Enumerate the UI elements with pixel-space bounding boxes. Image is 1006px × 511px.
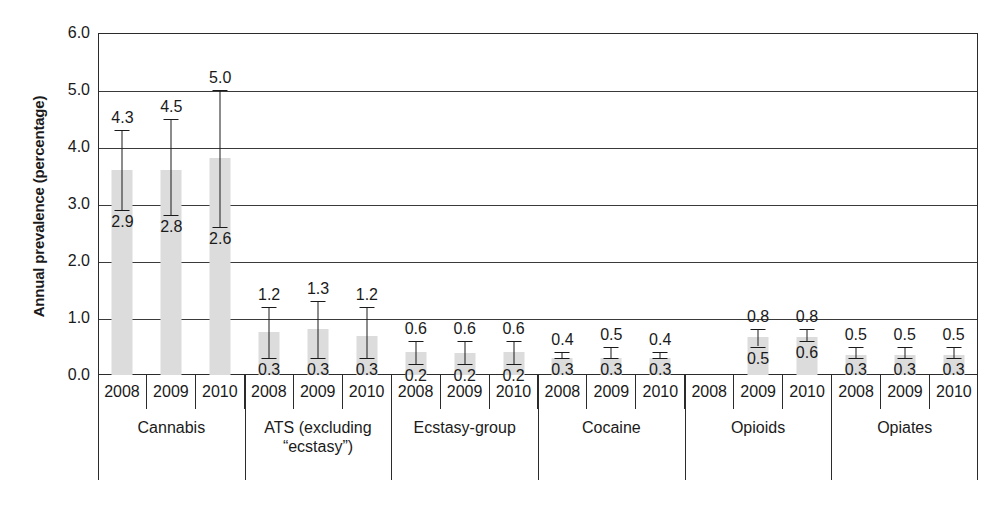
lower-value-label: 2.9: [111, 213, 133, 230]
error-bar-cap-upper: [311, 301, 326, 302]
group-separator: [685, 375, 686, 480]
y-tick-label: 3.0: [48, 196, 90, 212]
bar-cell: 1.20.3: [245, 33, 294, 375]
group-label: Ecstasy-group: [391, 409, 538, 480]
error-bar-cap-lower: [115, 210, 130, 211]
upper-value-label: 5.0: [209, 69, 231, 86]
error-bar-cap-lower: [457, 364, 472, 365]
year-label: 2009: [293, 375, 342, 409]
year-label: 2010: [635, 375, 684, 409]
error-bar: [220, 90, 221, 227]
error-bar: [269, 307, 270, 358]
error-bar-cap-lower: [311, 358, 326, 359]
upper-value-label: 0.5: [942, 326, 964, 343]
error-bar-cap-upper: [555, 352, 570, 353]
error-bar: [806, 329, 807, 340]
upper-value-label: 0.5: [894, 326, 916, 343]
year-label: 2010: [342, 375, 391, 409]
bar-cell: 0.40.3: [538, 33, 587, 375]
error-bar-cap-lower: [555, 358, 570, 359]
year-label: 2009: [733, 375, 782, 409]
bar-cell: 0.50.3: [587, 33, 636, 375]
error-bar: [758, 329, 759, 346]
upper-value-label: 0.6: [454, 320, 476, 337]
error-bar-cap-upper: [408, 341, 423, 342]
group-label-line: Opioids: [685, 418, 832, 437]
upper-value-label: 1.2: [356, 286, 378, 303]
bar-cell: [685, 33, 734, 375]
group-label-line: Cannabis: [98, 418, 245, 437]
bar-cell: 0.40.3: [636, 33, 685, 375]
bar-series-layer: 4.32.94.52.85.02.61.20.31.30.31.20.30.60…: [98, 33, 978, 375]
upper-value-label: 0.6: [405, 320, 427, 337]
group-separator: [538, 375, 539, 480]
year-label: 2009: [146, 375, 195, 409]
error-bar: [415, 341, 416, 364]
bar-cell: 0.60.2: [440, 33, 489, 375]
year-label: 2008: [98, 375, 146, 409]
error-bar-cap-upper: [213, 90, 228, 91]
error-bar: [855, 347, 856, 358]
error-bar-cap-upper: [897, 347, 912, 348]
y-tick-label: 0.0: [48, 367, 90, 383]
group-separator: [831, 375, 832, 480]
year-label: 2010: [782, 375, 831, 409]
year-label: 2008: [684, 375, 733, 409]
year-label: 2009: [586, 375, 635, 409]
error-bar-cap-lower: [897, 358, 912, 359]
upper-value-label: 4.5: [160, 98, 182, 115]
lower-value-label: 2.8: [160, 218, 182, 235]
error-bar-cap-lower: [799, 341, 814, 342]
chart-figure: Annual prevalence (percentage) 6.05.04.0…: [0, 0, 1006, 511]
error-bar: [171, 119, 172, 216]
upper-value-label: 0.6: [502, 320, 524, 337]
error-bar-cap-lower: [604, 358, 619, 359]
bar-cell: 1.30.3: [294, 33, 343, 375]
group-label-row: CannabisATS (excluding“ecstasy”)Ecstasy-…: [98, 409, 978, 480]
group-label: Opiates: [831, 409, 978, 480]
error-bar-cap-lower: [848, 358, 863, 359]
lower-value-label: 2.6: [209, 230, 231, 247]
year-label: 2008: [244, 375, 293, 409]
error-bar: [904, 347, 905, 358]
y-axis-tick-labels: 6.05.04.03.02.01.00.0: [40, 0, 90, 511]
error-bar-cap-lower: [408, 364, 423, 365]
group-label-line: Ecstasy-group: [391, 418, 538, 437]
error-bar-cap-lower: [653, 358, 668, 359]
error-bar-cap-upper: [359, 307, 374, 308]
year-label: 2008: [831, 375, 880, 409]
error-bar-cap-upper: [751, 329, 766, 330]
bar-cell: 0.60.2: [391, 33, 440, 375]
y-tick-label: 4.0: [48, 139, 90, 155]
group-label: Cocaine: [538, 409, 685, 480]
error-bar-cap-upper: [262, 307, 277, 308]
group-label-line: Cocaine: [538, 418, 685, 437]
group-label: ATS (excluding“ecstasy”): [245, 409, 392, 480]
error-bar-cap-lower: [262, 358, 277, 359]
error-bar: [366, 307, 367, 358]
y-tick-label: 5.0: [48, 82, 90, 98]
year-label: 2008: [391, 375, 440, 409]
group-separator: [391, 375, 392, 480]
year-label: 2010: [489, 375, 538, 409]
x-axis-label-table: 2008200920102008200920102008200920102008…: [98, 375, 978, 480]
year-label: 2010: [195, 375, 244, 409]
error-bar-cap-upper: [799, 329, 814, 330]
error-bar-cap-lower: [506, 364, 521, 365]
upper-value-label: 0.5: [845, 326, 867, 343]
y-tick-label: 1.0: [48, 310, 90, 326]
upper-value-label: 4.3: [111, 109, 133, 126]
bar-cell: 1.20.3: [342, 33, 391, 375]
bar-cell: 0.50.3: [831, 33, 880, 375]
bar-cell: 0.50.3: [880, 33, 929, 375]
bar-cell: 4.32.9: [98, 33, 147, 375]
upper-value-label: 1.3: [307, 280, 329, 297]
group-label: Cannabis: [98, 409, 245, 480]
bar-cell: 0.50.3: [929, 33, 978, 375]
upper-value-label: 0.4: [649, 331, 671, 348]
error-bar-cap-upper: [604, 347, 619, 348]
upper-value-label: 0.8: [796, 308, 818, 325]
error-bar-cap-upper: [653, 352, 668, 353]
lower-value-label: 0.5: [747, 350, 769, 367]
error-bar-cap-upper: [946, 347, 961, 348]
